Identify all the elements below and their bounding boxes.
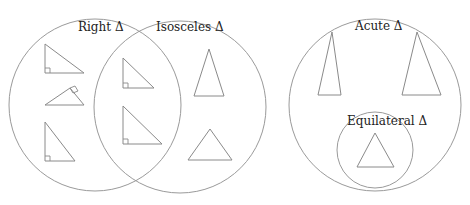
right-triangles-set-circle bbox=[9, 19, 181, 191]
equilateral-triangle bbox=[357, 133, 394, 167]
label-isosceles: Isosceles Δ bbox=[156, 20, 224, 34]
venn-diagram: Right Δ Isosceles Δ Acute Δ Equilateral … bbox=[0, 0, 470, 205]
isosceles-triangle-wide bbox=[188, 129, 232, 160]
right-triangle-1 bbox=[45, 44, 84, 73]
right-triangle-2-rotated bbox=[45, 86, 84, 105]
isosceles-right-triangle-small bbox=[123, 58, 154, 88]
label-equilateral: Equilateral Δ bbox=[347, 114, 427, 128]
acute-triangles-set-circle bbox=[289, 19, 461, 191]
isosceles-triangle-tall bbox=[194, 49, 224, 96]
isosceles-triangles-set-circle bbox=[94, 21, 266, 193]
acute-triangle-tall bbox=[402, 32, 441, 95]
label-acute: Acute Δ bbox=[354, 19, 403, 33]
isosceles-right-triangle-large bbox=[123, 106, 162, 144]
right-triangle-3-tall bbox=[45, 122, 75, 161]
acute-triangle-narrow bbox=[318, 32, 341, 95]
label-right: Right Δ bbox=[78, 20, 124, 34]
